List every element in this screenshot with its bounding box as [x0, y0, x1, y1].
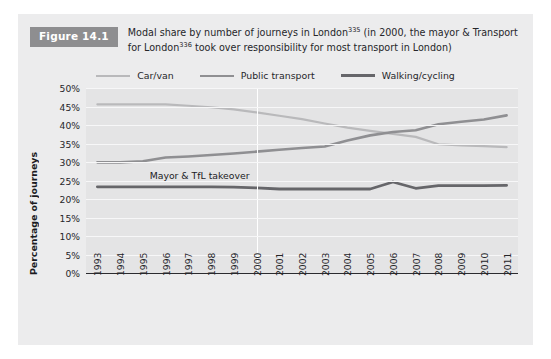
x-tick-label: 1997	[183, 253, 194, 276]
legend-swatch-icon	[200, 75, 234, 77]
legend-label: Walking/cycling	[382, 70, 455, 81]
x-tick-label: 2008	[433, 253, 444, 276]
x-tick-label: 2005	[365, 253, 376, 276]
gridline	[86, 125, 518, 126]
x-tick-label: 2006	[387, 253, 398, 276]
x-tick-label: 1995	[137, 253, 148, 276]
x-tick-label: 2010	[478, 253, 489, 276]
y-tick-label: 40%	[60, 120, 80, 131]
x-tick-label: 2011	[501, 253, 512, 276]
figure-number-badge: Figure 14.1	[30, 27, 118, 47]
y-axis-tick-labels: 0%5%10%15%20%25%30%35%40%45%50%	[42, 88, 84, 273]
gridline	[86, 181, 518, 182]
chart-legend: Car/vanPublic transportWalking/cycling	[18, 70, 533, 81]
x-tick-label: 2009	[456, 253, 467, 276]
y-tick-label: 20%	[60, 194, 80, 205]
chart-body: Percentage of journeys 0%5%10%15%20%25%3…	[18, 88, 533, 338]
caption-text-part-1: Modal share by number of journeys in Lon…	[128, 27, 348, 38]
series-line-walking-cycling	[97, 182, 506, 189]
legend-label: Public transport	[241, 70, 315, 81]
figure-panel: Figure 14.1 Modal share by number of jou…	[18, 14, 533, 345]
y-tick-label: 15%	[60, 212, 80, 223]
x-tick-label: 2003	[319, 253, 330, 276]
plot-area: Mayor & TfL takeover	[86, 88, 518, 273]
x-tick-label: 1999	[228, 253, 239, 276]
legend-swatch-icon	[341, 74, 375, 77]
series-line-public-transport	[97, 115, 506, 162]
y-axis-title: Percentage of journeys	[28, 148, 42, 278]
x-tick-label: 1993	[92, 253, 103, 276]
y-tick-label: 45%	[60, 101, 80, 112]
gridline	[86, 162, 518, 163]
gridline	[86, 107, 518, 108]
figure-caption: Modal share by number of journeys in Lon…	[128, 26, 522, 55]
x-tick-label: 2001	[274, 253, 285, 276]
y-tick-label: 30%	[60, 157, 80, 168]
gridline	[86, 218, 518, 219]
takeover-annotation-label: Mayor & TfL takeover	[150, 169, 257, 180]
legend-item-car-van: Car/van	[96, 70, 174, 81]
y-tick-label: 50%	[60, 83, 80, 94]
x-tick-label: 2004	[342, 253, 353, 276]
y-tick-label: 35%	[60, 138, 80, 149]
caption-text-part-4: took over responsibility for most transp…	[192, 42, 452, 53]
legend-label: Car/van	[137, 70, 174, 81]
caption-footnote-ref-335: 335	[348, 26, 361, 34]
y-tick-label: 10%	[60, 231, 80, 242]
x-tick-label: 2007	[410, 253, 421, 276]
x-tick-label: 1996	[160, 253, 171, 276]
x-axis-tick-labels: 1993199419951996199719981999200020012002…	[86, 276, 518, 334]
legend-swatch-icon	[96, 75, 130, 77]
legend-item-public-transport: Public transport	[200, 70, 315, 81]
x-tick-label: 1998	[206, 253, 217, 276]
x-tick-label: 2002	[297, 253, 308, 276]
x-tick-label: 2000	[251, 253, 262, 276]
y-tick-label: 0%	[65, 268, 80, 279]
gridline	[86, 144, 518, 145]
legend-item-walking-cycling: Walking/cycling	[341, 70, 455, 81]
figure-header: Figure 14.1 Modal share by number of jou…	[30, 26, 522, 55]
y-tick-label: 25%	[60, 175, 80, 186]
gridline	[86, 199, 518, 200]
gridline	[86, 88, 518, 89]
caption-text-part-2: (in 2000, the mayor &	[361, 27, 470, 38]
gridline	[86, 236, 518, 237]
caption-footnote-ref-336: 336	[179, 40, 192, 48]
y-tick-label: 5%	[65, 249, 80, 260]
x-tick-label: 1994	[115, 253, 126, 276]
